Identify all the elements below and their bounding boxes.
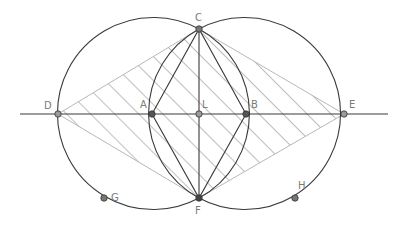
point-label-h: H (298, 180, 306, 191)
point-label-g: G (111, 192, 119, 203)
point-c[interactable] (196, 26, 202, 32)
point-label-e: E (349, 99, 355, 110)
point-e[interactable] (341, 111, 347, 117)
point-f[interactable] (196, 195, 202, 201)
point-b[interactable] (243, 111, 249, 117)
point-label-a: A (140, 99, 147, 110)
point-label-l: L (202, 99, 208, 110)
point-label-f: F (195, 205, 201, 216)
geometry-diagram: DALBECFGH (0, 0, 408, 233)
point-h[interactable] (292, 195, 298, 201)
point-label-b: B (251, 99, 258, 110)
point-d[interactable] (55, 111, 61, 117)
point-g[interactable] (101, 195, 107, 201)
point-label-c: C (195, 12, 202, 23)
point-l[interactable] (196, 111, 202, 117)
point-a[interactable] (149, 111, 155, 117)
point-label-d: D (44, 100, 52, 111)
